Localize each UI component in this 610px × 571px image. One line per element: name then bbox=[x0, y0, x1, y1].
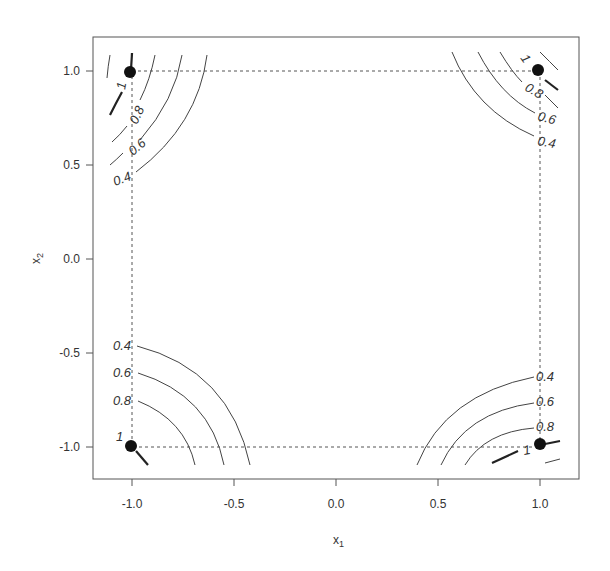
design-region-outline bbox=[132, 71, 540, 447]
x-tick-label: 1.0 bbox=[532, 497, 549, 511]
contour-label: 0.8 bbox=[113, 393, 132, 408]
design-point bbox=[125, 440, 137, 452]
contour-label: 0.4 bbox=[113, 338, 131, 353]
x-tick-label: -1.0 bbox=[122, 497, 143, 511]
contour-label: 0.8 bbox=[523, 80, 547, 102]
design-point bbox=[534, 438, 546, 450]
contour-label: 0.6 bbox=[536, 108, 558, 127]
x-axis: -1.0 -0.5 0.0 0.5 1.0 bbox=[122, 479, 549, 511]
contours-top-left: 0.8 0.6 0.4 1 bbox=[107, 53, 207, 189]
y-axis: -1.0 -0.5 0.0 0.5 1.0 bbox=[59, 64, 93, 454]
x-tick-label: -0.5 bbox=[224, 497, 245, 511]
contour-label: 1 bbox=[113, 81, 129, 91]
contour-chart: -1.0 -0.5 0.0 0.5 1.0 -1.0 -0.5 0.0 0.5 … bbox=[0, 0, 610, 571]
y-tick-label: -0.5 bbox=[59, 346, 80, 360]
x-tick-label: 0.0 bbox=[328, 497, 345, 511]
contour-label: 1 bbox=[522, 442, 532, 458]
contour-label: 1 bbox=[116, 429, 123, 444]
y-tick-label: 1.0 bbox=[63, 64, 80, 78]
y-tick-label: -1.0 bbox=[59, 440, 80, 454]
design-point bbox=[532, 64, 544, 76]
y-tick-label: 0.0 bbox=[63, 252, 80, 266]
contour-label: 0.8 bbox=[536, 419, 555, 434]
contour-label: 0.4 bbox=[111, 169, 133, 189]
contours-bottom-right: 0.4 0.6 0.8 1 bbox=[417, 369, 560, 465]
contour-label: 1 bbox=[518, 51, 534, 66]
contour-label: 0.6 bbox=[113, 365, 132, 380]
contour-label: 0.4 bbox=[536, 133, 556, 151]
design-point bbox=[124, 66, 136, 78]
contour-label: 0.6 bbox=[125, 135, 149, 159]
contour-label: 0.8 bbox=[126, 103, 148, 126]
contour-label: 0.6 bbox=[536, 394, 555, 409]
contour-label: 0.4 bbox=[536, 369, 554, 384]
x-axis-title: x1 bbox=[333, 533, 344, 549]
x-tick-label: 0.5 bbox=[430, 497, 447, 511]
y-axis-title: x2 bbox=[29, 253, 45, 264]
y-tick-label: 0.5 bbox=[63, 158, 80, 172]
